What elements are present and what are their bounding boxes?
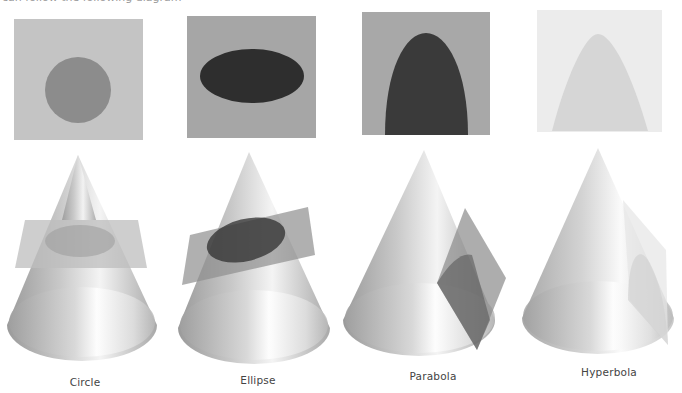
- ellipse-label: Ellipse: [240, 374, 275, 386]
- hyperbola-cross-section-panel: [537, 10, 662, 132]
- ellipse-shape: [200, 49, 304, 103]
- hyperbola-label: Hyperbola: [581, 366, 637, 378]
- ellipse-cone: [178, 152, 330, 364]
- parabola-label: Parabola: [409, 370, 456, 382]
- parabola-cross-section-panel: [362, 12, 490, 135]
- ellipse-cross-section-panel: [187, 16, 316, 138]
- circle-cross-section-panel: [14, 19, 143, 140]
- circle-label: Circle: [70, 376, 101, 388]
- parabola-cone: [343, 150, 506, 356]
- hyperbola-cone: [522, 148, 674, 354]
- circle-shape: [45, 57, 111, 123]
- circle-cone: [7, 155, 157, 361]
- conic-sections-diagram: [0, 0, 682, 393]
